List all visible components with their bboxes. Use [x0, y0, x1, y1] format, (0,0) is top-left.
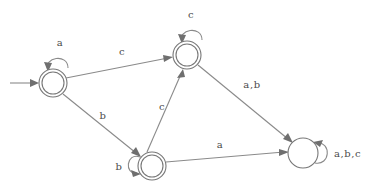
edge-q2-to-q1-label: c — [159, 101, 165, 112]
self-loop-top-left-label: a — [57, 37, 64, 48]
edge-q2-to-q1: c — [147, 69, 185, 152]
edge-q1-to-q3-label: a,b — [243, 79, 260, 90]
state-bottom-middle[interactable] — [138, 152, 166, 180]
self-loop-top-middle-label: c — [188, 9, 194, 20]
automaton-canvas: c b c a,b a a — [0, 0, 377, 191]
state-top-middle[interactable] — [173, 41, 201, 69]
edge-q1-to-q3: a,b — [198, 65, 293, 143]
edge-q2-to-q1-line — [147, 74, 181, 152]
self-loop-top-left: a — [44, 37, 68, 72]
state-right-trap[interactable] — [288, 138, 318, 168]
edge-q2-to-q3: a — [166, 139, 289, 162]
self-loop-right-trap: a,b,c — [313, 140, 361, 163]
edge-q2-to-q3-label: a — [217, 139, 224, 150]
self-loop-bottom-middle-label: b — [115, 161, 122, 172]
edge-q2-to-q3-line — [166, 152, 284, 162]
edge-q2-to-q1-arrowhead — [177, 69, 185, 78]
edge-q0-to-q2-arrowhead — [131, 147, 141, 157]
edge-q0-to-q2-line — [63, 94, 136, 153]
edge-q0-to-q2: b — [63, 94, 141, 157]
self-loop-top-middle: c — [178, 9, 202, 44]
edge-q0-to-q1-label: c — [119, 46, 125, 57]
state-right-trap-outer — [288, 138, 318, 168]
edge-q0-to-q1-line — [66, 58, 168, 78]
self-loop-bottom-middle: b — [115, 156, 141, 177]
edge-q0-to-q1: c — [66, 46, 173, 78]
state-top-middle-outer — [173, 41, 201, 69]
state-top-left-outer — [39, 69, 67, 97]
edge-q0-to-q2-label: b — [99, 110, 106, 121]
state-bottom-middle-outer — [138, 152, 166, 180]
state-top-left[interactable] — [39, 69, 67, 97]
self-loop-right-trap-label: a,b,c — [334, 148, 361, 159]
automaton-diagram: c b c a,b a a — [0, 0, 377, 191]
edge-q1-to-q3-arrowhead — [283, 133, 293, 143]
start-arrow — [10, 79, 39, 87]
edge-q1-to-q3-line — [198, 65, 288, 139]
edge-q0-to-q1-arrowhead — [163, 55, 173, 62]
start-arrow-head — [30, 79, 39, 87]
